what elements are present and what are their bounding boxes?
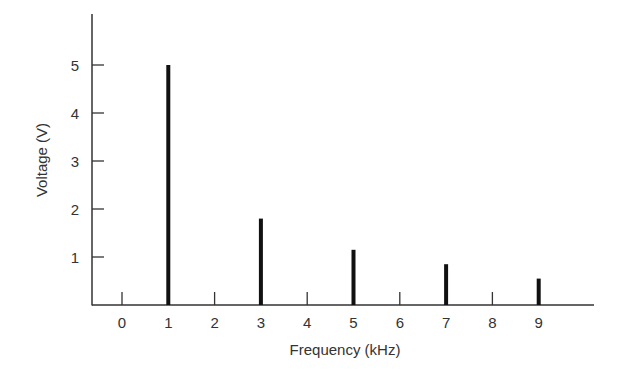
- x-tick-label: 1: [164, 314, 172, 331]
- x-tick-label: 6: [396, 314, 404, 331]
- x-tick-label: 4: [303, 314, 311, 331]
- x-tick-label: 0: [118, 314, 126, 331]
- y-tick-label: 1: [59, 249, 79, 266]
- y-tick-label: 2: [59, 201, 79, 218]
- x-tick-label: 7: [442, 314, 450, 331]
- x-tick-label: 2: [210, 314, 218, 331]
- y-tick-label: 3: [59, 153, 79, 170]
- x-tick-label: 9: [535, 314, 543, 331]
- plot-area: [0, 0, 624, 375]
- y-tick-label: 5: [59, 57, 79, 74]
- x-axis-label: Frequency (kHz): [290, 341, 401, 358]
- y-tick-label: 4: [59, 105, 79, 122]
- x-tick-label: 5: [349, 314, 357, 331]
- spectrum-chart: 123450123456789 Frequency (kHz) Voltage …: [0, 0, 624, 375]
- y-axis-label: Voltage (V): [33, 123, 50, 197]
- x-tick-label: 3: [257, 314, 265, 331]
- x-tick-label: 8: [488, 314, 496, 331]
